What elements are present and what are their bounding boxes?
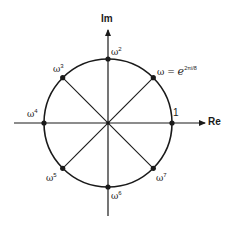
root-point-7: [151, 166, 156, 171]
root-point-1: [151, 75, 156, 80]
root-point-5: [60, 166, 65, 171]
origin-point: [106, 121, 110, 125]
root-point-4: [41, 120, 46, 125]
root-label-4: ω4: [27, 108, 38, 119]
root-label-3: ω3: [53, 63, 64, 74]
root-label-6: ω6: [111, 190, 122, 201]
root-point-6: [105, 184, 110, 189]
root-label-2: ω2: [111, 46, 122, 57]
root-label-5: ω5: [46, 172, 57, 183]
imag-axis-label: Im: [101, 14, 113, 24]
omega-definition: ω = e2πi/8: [157, 66, 197, 77]
unit-label: 1: [173, 108, 179, 118]
root-label-7: ω7: [156, 172, 167, 183]
root-point-3: [60, 75, 65, 80]
real-axis-label: Re: [208, 117, 221, 127]
root-point-0: [169, 120, 174, 125]
root-point-2: [105, 56, 110, 61]
